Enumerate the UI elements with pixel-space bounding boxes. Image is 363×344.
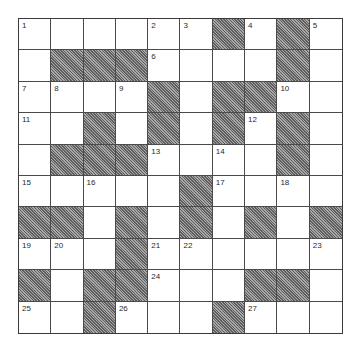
answer-cell[interactable]: 10	[277, 82, 309, 113]
answer-cell[interactable]: 9	[116, 82, 148, 113]
answer-cell[interactable]	[180, 302, 212, 333]
clue-number: 21	[151, 241, 160, 250]
answer-cell[interactable]	[180, 82, 212, 113]
answer-cell[interactable]	[310, 50, 342, 81]
answer-cell[interactable]	[148, 207, 180, 238]
answer-cell[interactable]	[180, 113, 212, 144]
answer-cell[interactable]	[51, 270, 83, 301]
answer-cell[interactable]	[19, 145, 51, 176]
blocked-cell	[148, 82, 180, 113]
answer-cell[interactable]	[245, 50, 277, 81]
clue-number: 10	[280, 84, 289, 93]
clue-number: 14	[216, 147, 225, 156]
clue-number: 17	[216, 178, 225, 187]
answer-cell[interactable]	[245, 176, 277, 207]
answer-cell[interactable]: 23	[310, 239, 342, 270]
clue-number: 5	[313, 21, 317, 30]
answer-cell[interactable]: 13	[148, 145, 180, 176]
answer-cell[interactable]: 11	[19, 113, 51, 144]
answer-cell[interactable]	[84, 19, 116, 50]
blocked-cell	[213, 19, 245, 50]
answer-cell[interactable]: 5	[310, 19, 342, 50]
answer-cell[interactable]	[277, 207, 309, 238]
blocked-cell	[310, 207, 342, 238]
clue-number: 18	[280, 178, 289, 187]
blocked-cell	[19, 270, 51, 301]
answer-cell[interactable]	[180, 270, 212, 301]
answer-cell[interactable]: 22	[180, 239, 212, 270]
answer-cell[interactable]: 14	[213, 145, 245, 176]
answer-cell[interactable]: 4	[245, 19, 277, 50]
answer-cell[interactable]: 19	[19, 239, 51, 270]
answer-cell[interactable]: 16	[84, 176, 116, 207]
answer-cell[interactable]: 20	[51, 239, 83, 270]
clue-number: 25	[22, 304, 31, 313]
clue-number: 11	[22, 115, 30, 124]
answer-cell[interactable]	[277, 239, 309, 270]
answer-cell[interactable]: 25	[19, 302, 51, 333]
answer-cell[interactable]	[213, 239, 245, 270]
answer-cell[interactable]	[148, 302, 180, 333]
answer-cell[interactable]	[277, 302, 309, 333]
answer-cell[interactable]: 6	[148, 50, 180, 81]
clue-number: 27	[248, 304, 257, 313]
answer-cell[interactable]: 27	[245, 302, 277, 333]
answer-cell[interactable]	[116, 176, 148, 207]
answer-cell[interactable]	[84, 207, 116, 238]
clue-number: 24	[151, 272, 160, 281]
answer-cell[interactable]: 26	[116, 302, 148, 333]
answer-cell[interactable]	[310, 82, 342, 113]
answer-cell[interactable]	[310, 270, 342, 301]
answer-cell[interactable]	[84, 239, 116, 270]
answer-cell[interactable]	[213, 270, 245, 301]
answer-cell[interactable]	[213, 50, 245, 81]
blocked-cell	[116, 207, 148, 238]
blocked-cell	[213, 113, 245, 144]
answer-cell[interactable]: 1	[19, 19, 51, 50]
answer-cell[interactable]	[180, 145, 212, 176]
clue-number: 26	[119, 304, 128, 313]
answer-cell[interactable]: 15	[19, 176, 51, 207]
answer-cell[interactable]	[310, 113, 342, 144]
blocked-cell	[180, 176, 212, 207]
answer-cell[interactable]	[116, 19, 148, 50]
clue-number: 13	[151, 147, 160, 156]
answer-cell[interactable]	[51, 19, 83, 50]
answer-cell[interactable]: 21	[148, 239, 180, 270]
blocked-cell	[277, 270, 309, 301]
answer-cell[interactable]: 12	[245, 113, 277, 144]
answer-cell[interactable]	[310, 302, 342, 333]
answer-cell[interactable]: 18	[277, 176, 309, 207]
answer-cell[interactable]	[148, 176, 180, 207]
blocked-cell	[245, 82, 277, 113]
blocked-cell	[180, 207, 212, 238]
answer-cell[interactable]	[84, 82, 116, 113]
answer-cell[interactable]	[213, 207, 245, 238]
answer-cell[interactable]: 17	[213, 176, 245, 207]
answer-cell[interactable]	[51, 302, 83, 333]
clue-number: 16	[87, 178, 96, 187]
blocked-cell	[213, 82, 245, 113]
blocked-cell	[277, 50, 309, 81]
answer-cell[interactable]: 2	[148, 19, 180, 50]
blocked-cell	[84, 145, 116, 176]
answer-cell[interactable]	[245, 145, 277, 176]
answer-cell[interactable]	[245, 239, 277, 270]
answer-cell[interactable]: 7	[19, 82, 51, 113]
answer-cell[interactable]	[19, 50, 51, 81]
answer-cell[interactable]: 3	[180, 19, 212, 50]
blocked-cell	[84, 50, 116, 81]
answer-cell[interactable]	[310, 145, 342, 176]
clue-number: 20	[54, 241, 63, 250]
answer-cell[interactable]	[51, 176, 83, 207]
clue-number: 6	[151, 52, 155, 61]
answer-cell[interactable]	[310, 176, 342, 207]
answer-cell[interactable]	[116, 113, 148, 144]
blocked-cell	[19, 207, 51, 238]
answer-cell[interactable]: 24	[148, 270, 180, 301]
answer-cell[interactable]: 8	[51, 82, 83, 113]
blocked-cell	[245, 207, 277, 238]
blocked-cell	[51, 207, 83, 238]
answer-cell[interactable]	[51, 113, 83, 144]
answer-cell[interactable]	[180, 50, 212, 81]
